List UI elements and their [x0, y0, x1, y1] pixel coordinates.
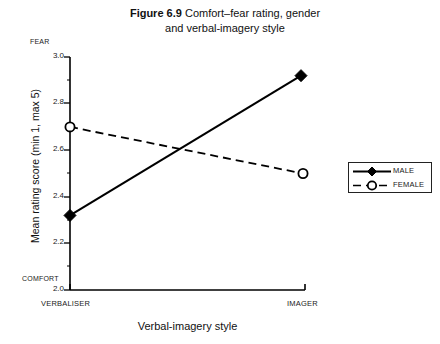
legend: MALE FEMALE: [348, 162, 432, 193]
series-line-male: [70, 76, 301, 216]
data-point-female-imager: [298, 169, 307, 178]
legend-label-female: FEMALE: [393, 180, 424, 189]
legend-key-male: [351, 164, 393, 179]
data-point-male-imager: [295, 70, 307, 82]
legend-entry-male: MALE: [349, 164, 433, 179]
legend-key-female: [351, 178, 393, 193]
series-line-female: [70, 127, 303, 174]
data-point-male-verbaliser: [64, 209, 76, 221]
legend-label-male: MALE: [393, 166, 414, 175]
figure-container: Figure 6.9 Comfort–fear rating, gender a…: [0, 0, 440, 344]
legend-entry-female: FEMALE: [349, 178, 433, 193]
data-point-female-verbaliser: [65, 122, 74, 131]
